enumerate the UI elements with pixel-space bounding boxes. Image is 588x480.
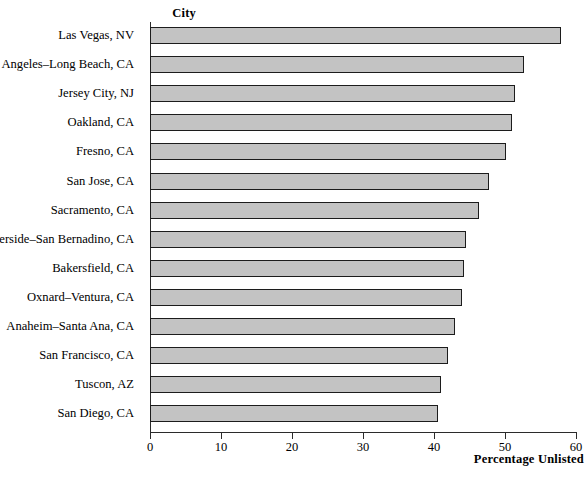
category-label: Riverside–San Bernadino, CA [0,231,142,248]
bar [150,173,489,190]
bar [150,143,506,160]
category-label: Jersey City, NJ [0,85,142,102]
category-label: Los Angeles–Long Beach, CA [0,56,142,73]
y-axis-title: City [0,6,196,21]
bar [150,289,462,306]
category-label: Anaheim–Santa Ana, CA [0,318,142,335]
category-label: Fresno, CA [0,143,142,160]
x-tick-mark [505,433,506,439]
category-label: Bakersfield, CA [0,260,142,277]
category-label: San Jose, CA [0,173,142,190]
x-tick-mark [221,433,222,439]
bar [150,27,561,44]
bar [150,347,448,364]
category-label: Tuscon, AZ [0,376,142,393]
bar [150,202,479,219]
category-label: Oxnard–Ventura, CA [0,289,142,306]
x-tick-mark [363,433,364,439]
plot-area: 0102030405060 Las Vegas, NVLos Angeles–L… [150,22,576,432]
bar [150,56,524,73]
bar [150,85,515,102]
x-tick-label: 10 [201,440,241,455]
category-label: San Francisco, CA [0,347,142,364]
bar [150,260,464,277]
x-axis-title: Percentage Unlisted [300,452,584,467]
category-label: Oakland, CA [0,114,142,131]
x-tick-mark [292,433,293,439]
bar [150,231,466,248]
bar [150,376,441,393]
x-tick-mark [150,433,151,439]
x-tick-mark [576,433,577,439]
bar [150,114,512,131]
category-label: San Diego, CA [0,405,142,422]
category-label: Sacramento, CA [0,202,142,219]
category-axis-line [150,22,151,432]
category-label: Las Vegas, NV [0,27,142,44]
bar-chart: City 0102030405060 Las Vegas, NVLos Ange… [0,0,588,480]
x-tick-label: 0 [130,440,170,455]
bar [150,405,438,422]
x-tick-mark [434,433,435,439]
bar [150,318,455,335]
